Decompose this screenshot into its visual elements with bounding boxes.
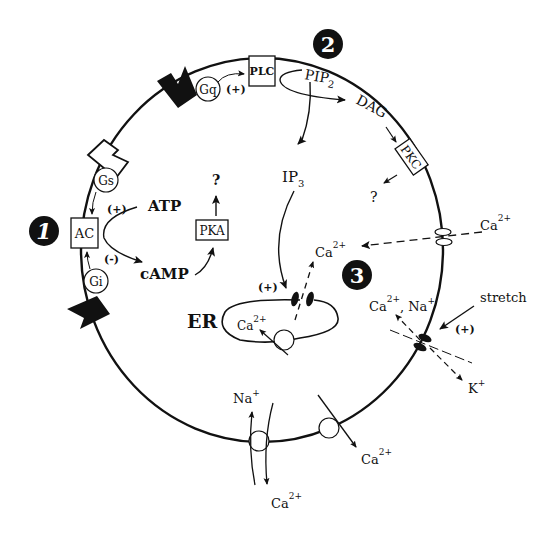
svg-text:1: 1 xyxy=(36,218,51,244)
svg-text:PIP2: PIP2 xyxy=(303,66,337,90)
svg-text:Ca2+, Na+: Ca2+, Na+ xyxy=(369,294,435,314)
section-1: 1 Gs Gi AC (+) (-) ATP cAMP PKA ? xyxy=(29,140,228,329)
svg-text:Gs: Gs xyxy=(98,174,114,188)
svg-text:(+): (+) xyxy=(455,323,475,336)
calcium-channel xyxy=(435,229,451,236)
svg-text:(+): (+) xyxy=(226,83,246,96)
svg-text:stretch: stretch xyxy=(480,290,527,305)
svg-text:ATP: ATP xyxy=(147,197,181,215)
calcium-pump xyxy=(319,418,339,438)
svg-text:PKA: PKA xyxy=(199,224,225,238)
ip3-receptor-channel xyxy=(290,291,301,307)
svg-text:ER: ER xyxy=(187,310,217,332)
er-pump xyxy=(274,330,294,350)
svg-text:Ca2+: Ca2+ xyxy=(361,447,392,467)
svg-text:IP3: IP3 xyxy=(282,168,304,189)
svg-text:Na+: Na+ xyxy=(233,388,260,406)
svg-text:K+: K+ xyxy=(468,378,485,396)
svg-text:Ca2+: Ca2+ xyxy=(480,213,511,233)
svg-text:(+): (+) xyxy=(258,281,278,294)
svg-text:Ca2+: Ca2+ xyxy=(271,491,302,511)
svg-text:Gi: Gi xyxy=(89,275,103,289)
section-3: 3 Ca2+ Ca2+, Na+ stretch (+) K+ xyxy=(342,213,527,396)
svg-text:Ca2+: Ca2+ xyxy=(237,314,267,333)
svg-text:(+): (+) xyxy=(107,203,127,216)
section-2: 2 Gq (+) PLC PIP2 DAG PKC ? IP3 (+) ER C… xyxy=(157,29,428,355)
svg-text:cAMP: cAMP xyxy=(140,265,189,283)
svg-text:?: ? xyxy=(212,172,220,188)
svg-text:Gq: Gq xyxy=(199,83,217,97)
svg-text:PLC: PLC xyxy=(250,65,275,78)
svg-text:AC: AC xyxy=(74,226,94,241)
svg-text:?: ? xyxy=(370,189,378,205)
svg-text:Ca2+: Ca2+ xyxy=(315,240,346,260)
svg-text:3: 3 xyxy=(350,263,365,288)
svg-text:2: 2 xyxy=(321,32,336,57)
ip3-receptor-channel xyxy=(305,291,316,307)
gi-receptor-icon xyxy=(67,296,110,329)
cell-membrane xyxy=(81,58,443,442)
calcium-channel xyxy=(436,239,452,246)
svg-text:(-): (-) xyxy=(104,253,119,266)
